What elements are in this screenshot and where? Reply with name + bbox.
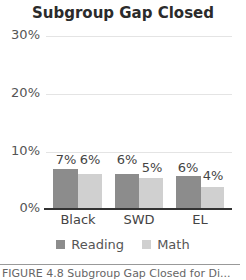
legend-label-reading: Reading [71, 237, 124, 252]
bar-el-math [201, 187, 224, 209]
bar-swd-reading [115, 174, 139, 209]
y-tick-10: 10% [0, 143, 40, 158]
chart-title: Subgroup Gap Closed [0, 4, 246, 22]
bar-swd-math [139, 178, 163, 209]
legend-item-reading: Reading [56, 237, 124, 252]
value-label: 5% [137, 160, 167, 175]
value-label: 6% [75, 152, 105, 167]
y-tick-0: 0% [0, 200, 40, 215]
legend-swatch-math [142, 240, 151, 249]
gridline-20 [46, 94, 232, 95]
x-label-el: EL [170, 212, 230, 227]
legend-swatch-reading [56, 240, 65, 249]
x-label-swd: SWD [109, 212, 169, 227]
figure-caption: FIGURE 4.8 Subgroup Gap Closed for Di... [2, 267, 230, 280]
x-label-black: Black [48, 212, 108, 227]
legend: Reading Math [0, 237, 246, 252]
caption-divider [0, 264, 240, 265]
x-axis-line [44, 208, 232, 210]
bar-black-reading [53, 169, 78, 209]
value-label: 4% [198, 168, 228, 183]
legend-item-math: Math [142, 237, 190, 252]
legend-label-math: Math [157, 237, 190, 252]
gridline-30 [46, 36, 232, 37]
y-tick-30: 30% [0, 27, 40, 42]
y-tick-20: 20% [0, 85, 40, 100]
bar-black-math [78, 174, 102, 209]
